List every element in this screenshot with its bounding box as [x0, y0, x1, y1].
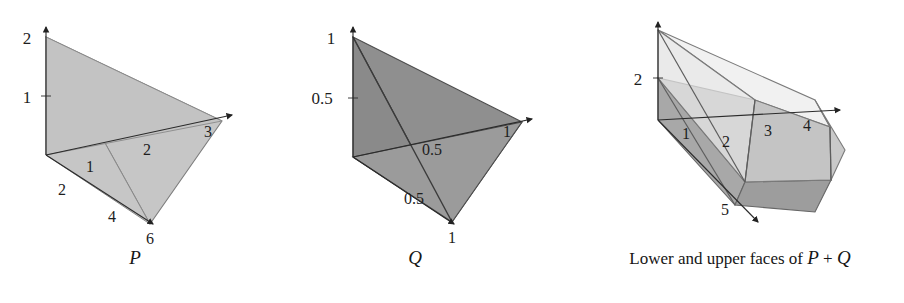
y-label-6: 6 — [146, 230, 154, 247]
z-label-1: 1 — [327, 29, 336, 48]
polytope-p-canvas: 2 1 1 2 3 2 4 6 — [0, 0, 270, 250]
z-label-0-5: 0.5 — [311, 89, 332, 108]
x-label-3: 3 — [204, 123, 212, 140]
caption-polytope-p: P — [0, 248, 270, 269]
lower-face-d — [735, 180, 831, 212]
polytope-pq-canvas: 2 1 2 3 4 5 — [600, 0, 904, 250]
panel-polytope-p: 2 1 1 2 3 2 4 6 — [0, 0, 270, 250]
caption-polytope-q: Q — [280, 248, 550, 269]
x-label-0-5: 0.5 — [422, 141, 442, 158]
caption-polytope-p-plus-q: Lower and upper faces of P + Q — [580, 248, 900, 269]
z-label-2: 2 — [634, 70, 643, 89]
polytope-q-body — [353, 37, 522, 222]
caption-pq-plus: + — [819, 249, 837, 268]
z-label-2: 2 — [23, 29, 32, 48]
caption-pq-prefix: Lower and upper faces of — [629, 249, 807, 268]
x-label-2: 2 — [722, 133, 730, 150]
caption-p-symbol: P — [129, 247, 141, 268]
caption-pq-p-symbol: P — [807, 247, 819, 268]
y-label-2: 2 — [58, 181, 66, 198]
x-label-1: 1 — [86, 158, 94, 175]
x-label-4: 4 — [803, 117, 811, 134]
polytope-pq-upper-faces — [658, 30, 845, 182]
y-label-4: 4 — [108, 208, 116, 225]
x-label-1: 1 — [503, 123, 511, 140]
y-label-5: 5 — [721, 201, 729, 218]
caption-q-symbol: Q — [408, 247, 422, 268]
polytope-q-canvas: 1 0.5 0.5 1 0.5 1 — [280, 0, 550, 250]
x-label-2: 2 — [143, 141, 151, 158]
panel-polytope-q: 1 0.5 0.5 1 0.5 1 — [280, 0, 550, 250]
z-label-1: 1 — [23, 88, 32, 107]
polytope-p-body — [46, 37, 222, 224]
x-label-1: 1 — [682, 125, 690, 142]
panel-polytope-p-plus-q: 2 1 2 3 4 5 — [600, 0, 904, 250]
caption-pq-q-symbol: Q — [837, 247, 851, 268]
figure-row: 2 1 1 2 3 2 4 6 — [0, 0, 904, 303]
x-label-3: 3 — [764, 122, 772, 139]
y-label-0-5: 0.5 — [404, 190, 424, 207]
y-label-1: 1 — [448, 229, 456, 246]
